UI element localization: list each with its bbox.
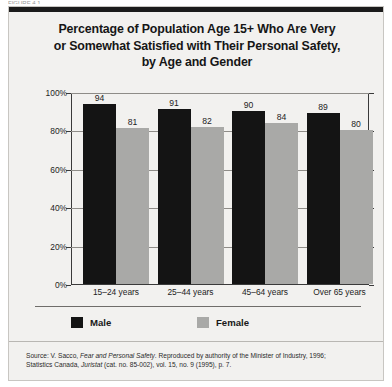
chart-title-line-2: or Somewhat Satisfied with Their Persona… [27, 38, 367, 55]
y-axis-tick-label: 80% [33, 126, 67, 136]
bar-value-label: 91 [169, 98, 179, 108]
y-axis-tick-mark [369, 285, 374, 286]
bar-female: 84 [265, 123, 298, 284]
bar-male: 91 [158, 109, 191, 284]
source-line1-title: Fear and Personal Safety [80, 352, 155, 359]
x-axis-category-labels: 15–24 years25–44 years45–64 yearsOver 65… [71, 287, 369, 301]
bar-group: 9182 [158, 93, 224, 284]
bar-male: 94 [83, 104, 116, 284]
bar-male: 89 [307, 113, 340, 284]
bar-value-label: 84 [277, 112, 287, 122]
bar-value-label: 82 [202, 116, 212, 126]
source-line2-suffix: (cat. no. 85-002), vol. 15, no. 9 (1995)… [102, 361, 231, 368]
bar-male: 90 [232, 111, 265, 284]
source-line2-title: Juristat [81, 361, 102, 368]
bar-female: 80 [340, 130, 373, 284]
legend-swatch-male-icon [71, 317, 83, 328]
bar-value-label: 90 [244, 100, 254, 110]
bar-value-label: 89 [318, 102, 328, 112]
x-axis-category-label: Over 65 years [293, 287, 387, 297]
bar-group: 8980 [307, 93, 373, 284]
legend-divider [35, 306, 361, 307]
y-axis-tick-label: 0% [33, 280, 67, 290]
chart-title: Percentage of Population Age 15+ Who Are… [27, 21, 367, 71]
bar-group: 9481 [83, 93, 149, 284]
source-divider [9, 341, 383, 342]
legend-item-male: Male [71, 317, 111, 328]
legend-label-male: Male [90, 317, 111, 328]
legend-swatch-female-icon [197, 317, 209, 328]
source-note: Source: V. Sacco, Fear and Personal Safe… [26, 351, 370, 369]
bar-value-label: 81 [128, 117, 138, 127]
y-axis-tick-label: 60% [33, 165, 67, 175]
figure-container: Percentage of Population Age 15+ Who Are… [8, 6, 384, 381]
source-note-line-2: Statistics Canada, Juristat (cat. no. 85… [26, 360, 370, 369]
chart-plot-area: 0%20%40%60%80%100% 9481918290848980 [29, 93, 369, 285]
source-line1-suffix: . Reproduced by authority of the Ministe… [155, 352, 326, 359]
y-axis-tick-label: 40% [33, 203, 67, 213]
y-axis-tick-label: 100% [33, 88, 67, 98]
bar-female: 82 [191, 127, 224, 284]
bar-value-label: 80 [351, 119, 361, 129]
y-axis-tick-mark [66, 285, 71, 286]
chart-title-line-3: by Age and Gender [27, 54, 367, 71]
figure-top-rule [9, 7, 383, 12]
bar-group-container: 9481918290848980 [71, 93, 369, 285]
bar-group: 9084 [232, 93, 298, 284]
chart-title-line-1: Percentage of Population Age 15+ Who Are… [27, 21, 367, 38]
source-line2-prefix: Statistics Canada, [26, 361, 81, 368]
legend-label-female: Female [216, 317, 249, 328]
source-line1-prefix: Source: V. Sacco, [26, 352, 80, 359]
bar-value-label: 94 [95, 93, 105, 103]
page-header-fragment: FIGURE 4.1 [8, 0, 128, 4]
y-axis-tick-label: 20% [33, 242, 67, 252]
chart-grid: 9481918290848980 [71, 93, 369, 285]
bar-female: 81 [116, 128, 149, 284]
legend-item-female: Female [197, 317, 249, 328]
source-note-line-1: Source: V. Sacco, Fear and Personal Safe… [26, 351, 370, 360]
